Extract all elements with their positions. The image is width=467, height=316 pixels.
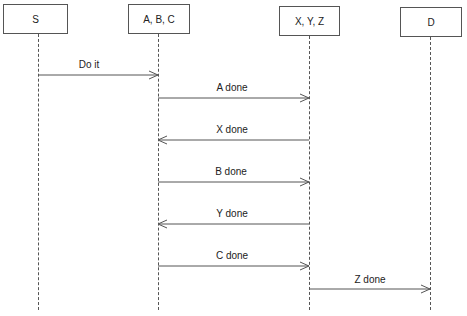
arrow-a-done <box>158 94 309 102</box>
message-arrows <box>0 0 467 316</box>
message-label-y-done: Y done <box>216 208 248 219</box>
message-label-a-done: A done <box>216 82 247 93</box>
message-label-x-done: X done <box>216 124 248 135</box>
arrow-y-done <box>158 220 309 228</box>
message-label-b-done: B done <box>215 166 247 177</box>
message-label-do-it: Do it <box>79 59 100 70</box>
arrow-b-done <box>158 178 309 186</box>
arrow-c-done <box>158 262 309 270</box>
arrow-do-it <box>38 71 158 79</box>
message-label-c-done: C done <box>216 250 248 261</box>
arrow-x-done <box>158 136 309 144</box>
message-label-z-done: Z done <box>354 274 385 285</box>
arrow-z-done <box>309 285 430 293</box>
